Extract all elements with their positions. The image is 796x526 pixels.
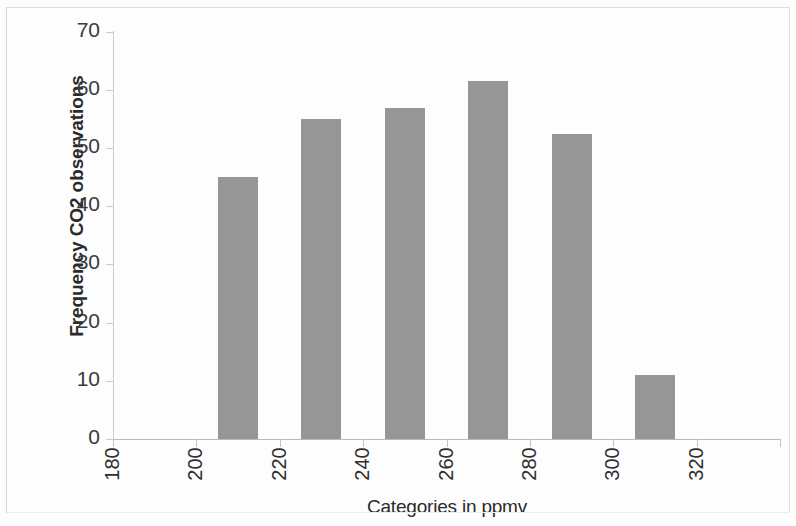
y-axis-tick-label: 40 <box>40 192 100 216</box>
scan-edge <box>7 512 790 513</box>
chart-figure: Frequency CO2 observations 0102030405060… <box>0 0 796 526</box>
y-axis-tick-label: 30 <box>40 250 100 274</box>
bar <box>552 134 592 439</box>
y-axis-tick-label: 20 <box>40 309 100 333</box>
bar <box>218 177 258 439</box>
bar <box>468 81 508 439</box>
y-axis-tick-label: 60 <box>40 76 100 100</box>
bar <box>301 119 341 439</box>
y-axis-tick-label: 10 <box>40 367 100 391</box>
y-axis-tick-label: 0 <box>40 425 100 449</box>
bar <box>635 375 675 439</box>
x-axis-title: Categories in ppmv <box>113 496 781 518</box>
bar <box>385 108 425 440</box>
y-axis-tick-mark <box>106 206 113 207</box>
y-axis-tick-mark <box>106 32 113 33</box>
plot-area <box>113 32 780 439</box>
y-axis-tick-label: 50 <box>40 134 100 158</box>
y-axis-tick-mark <box>106 264 113 265</box>
x-axis-tick-mark <box>780 439 781 447</box>
y-axis-tick-mark <box>106 381 113 382</box>
y-axis-tick-mark <box>106 323 113 324</box>
y-axis-tick-mark <box>106 90 113 91</box>
y-axis-tick-label: 70 <box>40 18 100 42</box>
y-axis-tick-mark <box>106 148 113 149</box>
